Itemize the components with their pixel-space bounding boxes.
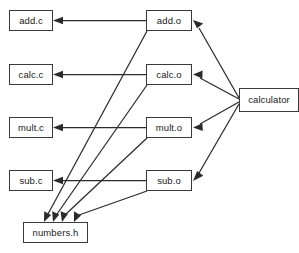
node-label: calculator	[248, 95, 290, 105]
node-add-o[interactable]: add.o	[146, 10, 192, 31]
node-label: add.o	[157, 16, 181, 26]
dependency-diagram-canvas: add.c add.o calc.c calc.o mult.c mult.o …	[0, 0, 299, 253]
node-label: mult.o	[156, 123, 182, 133]
node-label: add.c	[19, 16, 43, 26]
node-calc-o[interactable]: calc.o	[146, 64, 192, 85]
node-sub-c[interactable]: sub.c	[9, 170, 53, 191]
node-label: sub.o	[157, 176, 181, 186]
node-calc-c[interactable]: calc.c	[9, 64, 53, 85]
edge-add_o-to-add_c	[53, 17, 146, 24]
node-label: numbers.h	[33, 228, 79, 238]
node-label: calc.c	[19, 70, 44, 80]
edge-mult_o-to-mult_c	[53, 124, 146, 131]
edge-calc_o-to-calc_c	[53, 71, 146, 78]
node-add-c[interactable]: add.c	[9, 10, 53, 31]
node-mult-o[interactable]: mult.o	[146, 117, 192, 138]
edge-calc_o-to-numbers_h	[52, 85, 147, 222]
node-label: mult.c	[18, 123, 44, 133]
node-label: calc.o	[156, 70, 181, 80]
node-calculator[interactable]: calculator	[239, 88, 299, 112]
node-mult-c[interactable]: mult.c	[9, 117, 53, 138]
node-sub-o[interactable]: sub.o	[146, 170, 192, 191]
node-numbers-h[interactable]: numbers.h	[23, 222, 88, 243]
node-label: sub.c	[19, 176, 42, 186]
